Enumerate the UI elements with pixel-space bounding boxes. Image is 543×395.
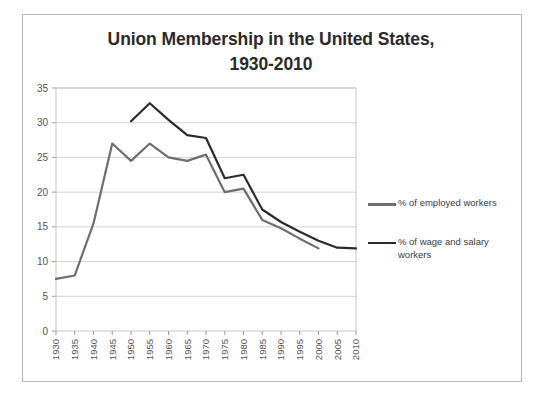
plot-frame xyxy=(56,88,356,331)
y-axis-tick-label: 35 xyxy=(37,83,49,94)
y-axis-tick-label: 5 xyxy=(42,291,48,302)
x-axis-tick-label: 1950 xyxy=(125,339,136,360)
y-axis-tick-label: 10 xyxy=(37,256,49,267)
x-axis-tick-label: 2010 xyxy=(350,339,361,360)
legend-item-wage-and-salary-workers: % of wage and salary workers xyxy=(368,236,518,262)
chart-legend: % of employed workers % of wage and sala… xyxy=(368,197,518,287)
legend-item-employed-workers: % of employed workers xyxy=(368,197,518,210)
legend-line-swatch-icon xyxy=(368,238,396,248)
legend-line-swatch-icon xyxy=(368,199,396,209)
legend-label: % of employed workers xyxy=(398,197,497,210)
x-axis-tick-label: 1995 xyxy=(294,339,305,360)
y-axis-tick-label: 25 xyxy=(37,152,49,163)
x-axis-tick-label: 1985 xyxy=(257,339,268,360)
x-axis-tick-label: 1990 xyxy=(275,339,286,360)
x-axis-tick-label: 1945 xyxy=(107,339,118,360)
x-axis-tick-label: 1955 xyxy=(144,339,155,360)
x-axis-tick-label: 1940 xyxy=(88,339,99,360)
x-axis-tick-label: 1975 xyxy=(219,339,230,360)
y-axis-tick-label: 15 xyxy=(37,221,49,232)
data-series-line xyxy=(56,144,319,279)
x-axis-tick-label: 1960 xyxy=(163,339,174,360)
legend-label: % of wage and salary workers xyxy=(398,236,516,262)
x-axis-tick-label: 1970 xyxy=(200,339,211,360)
y-axis-tick-label: 30 xyxy=(37,117,49,128)
x-axis-tick-label: 1980 xyxy=(238,339,249,360)
x-axis-tick-label: 2000 xyxy=(313,339,324,360)
x-axis-tick-label: 2005 xyxy=(332,339,343,360)
y-axis-tick-label: 0 xyxy=(42,326,48,337)
chart-figure: Union Membership in the United States, 1… xyxy=(22,14,522,382)
x-axis-tick-label: 1930 xyxy=(50,339,61,360)
x-axis-tick-label: 1935 xyxy=(69,339,80,360)
y-axis-tick-label: 20 xyxy=(37,187,49,198)
x-axis-tick-label: 1965 xyxy=(182,339,193,360)
